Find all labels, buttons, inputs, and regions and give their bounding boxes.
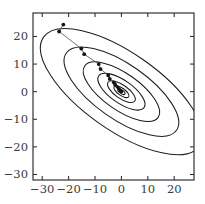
x-tick-label-2: −10	[83, 182, 107, 196]
y-tick-label-1: −20	[4, 140, 28, 154]
figure-background	[0, 0, 205, 204]
trajectory-point-3	[82, 52, 86, 56]
y-tick-label-5: 20	[13, 29, 28, 43]
y-tick-label-3: 0	[21, 85, 28, 99]
trajectory-point-0	[61, 23, 65, 27]
trajectory-point-7	[108, 77, 112, 81]
x-tick-label-5: 20	[167, 182, 182, 196]
trajectory-point-6	[106, 73, 110, 77]
y-tick-label-0: −30	[4, 167, 28, 181]
trajectory-point-4	[97, 62, 101, 66]
plot-canvas: −30−20−1001020 −30−20−1001020	[0, 0, 205, 204]
contour-plot-figure: −30−20−1001020 −30−20−1001020	[0, 0, 205, 204]
trajectory-point-2	[79, 47, 83, 51]
y-tick-label-4: 10	[13, 57, 28, 71]
x-tick-label-4: 10	[140, 182, 155, 196]
y-tick-label-2: −10	[4, 112, 28, 126]
x-tick-label-1: −20	[56, 182, 80, 196]
trajectory-point-1	[57, 30, 61, 34]
x-tick-label-0: −30	[30, 182, 54, 196]
trajectory-point-5	[99, 67, 103, 71]
trajectory-point-18	[120, 90, 123, 93]
x-tick-label-3: 0	[118, 182, 125, 196]
